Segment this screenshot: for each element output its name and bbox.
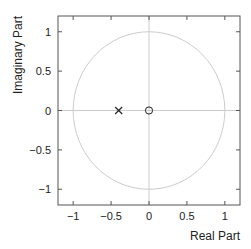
y-tick-label: 0 <box>45 105 51 117</box>
y-tick-label: −0.5 <box>29 144 51 156</box>
x-tick-label: 1 <box>222 210 228 222</box>
x-tick-label: 0 <box>146 210 152 222</box>
y-tick-label: −1 <box>38 183 51 195</box>
reference-lines <box>58 16 240 205</box>
y-axis-label: Imaginary Part <box>11 15 25 94</box>
x-tick-label: 0.5 <box>179 210 194 222</box>
x-tick-label: −1 <box>67 210 80 222</box>
x-axis-ticks: −1−0.500.51 <box>67 16 228 222</box>
y-tick-label: 1 <box>45 26 51 38</box>
x-axis-label: Real Part <box>190 229 241 243</box>
x-tick-label: −0.5 <box>100 210 122 222</box>
y-tick-label: 0.5 <box>36 65 51 77</box>
pole-zero-plot: −1−0.500.51 −1−0.500.51 Real Part Imagin… <box>0 0 251 249</box>
